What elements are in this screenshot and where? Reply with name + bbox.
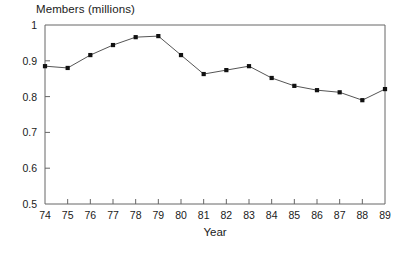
x-tick-label: 75 [62, 209, 74, 221]
x-tick-label: 89 [379, 209, 391, 221]
data-point-marker [338, 90, 342, 94]
y-tick-label: 0.5 [22, 198, 37, 210]
y-tick-label: 0.9 [22, 55, 37, 67]
data-point-marker [224, 68, 228, 72]
data-point-marker [43, 64, 47, 68]
data-point-marker [292, 84, 296, 88]
x-tick-label: 81 [198, 209, 210, 221]
data-point-marker [360, 98, 364, 102]
y-tick-label: 0.6 [22, 162, 37, 174]
data-point-marker [247, 64, 251, 68]
data-series-line [45, 36, 385, 100]
data-point-marker [179, 53, 183, 57]
y-axis-ticks: 10.90.80.70.60.5 [22, 19, 50, 210]
line-chart-plot: 10.90.80.70.60.5 74757677787980818283848… [0, 0, 402, 256]
data-point-marker [111, 43, 115, 47]
data-point-marker [66, 66, 70, 70]
y-tick-label: 0.7 [22, 126, 37, 138]
plot-frame [45, 25, 385, 204]
x-tick-label: 74 [39, 209, 51, 221]
x-tick-label: 84 [266, 209, 278, 221]
x-tick-label: 78 [130, 209, 142, 221]
x-tick-label: 79 [152, 209, 164, 221]
x-tick-label: 88 [356, 209, 368, 221]
data-point-marker [383, 87, 387, 91]
data-point-marker [88, 53, 92, 57]
x-tick-label: 86 [311, 209, 323, 221]
x-tick-label: 76 [84, 209, 96, 221]
x-axis-ticks: 74757677787980818283848586878889 [39, 199, 391, 221]
data-point-marker [134, 35, 138, 39]
x-tick-label: 85 [288, 209, 300, 221]
data-point-marker [315, 88, 319, 92]
x-tick-label: 80 [175, 209, 187, 221]
chart-figure: Members (millions) 10.90.80.70.60.5 7475… [0, 0, 402, 256]
x-tick-label: 87 [334, 209, 346, 221]
x-axis-title: Year [203, 226, 226, 238]
data-point-marker [156, 34, 160, 38]
x-tick-label: 77 [107, 209, 119, 221]
data-point-marker [202, 72, 206, 76]
data-point-marker [270, 76, 274, 80]
y-tick-label: 0.8 [22, 91, 37, 103]
y-tick-label: 1 [31, 19, 37, 31]
x-tick-label: 82 [220, 209, 232, 221]
x-tick-label: 83 [243, 209, 255, 221]
